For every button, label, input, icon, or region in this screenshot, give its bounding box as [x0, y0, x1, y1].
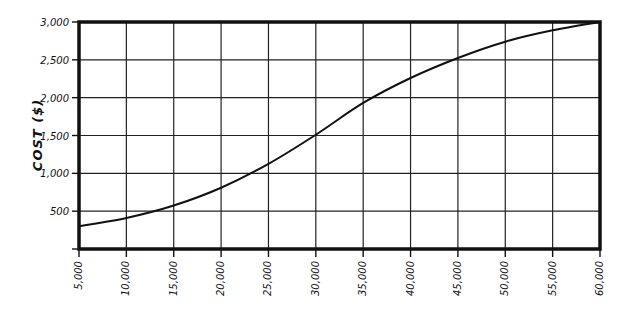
grid-lines	[79, 22, 600, 249]
cost-curve	[79, 22, 600, 226]
x-tick-label: 25,000	[262, 261, 273, 296]
x-tick-label: 30,000	[310, 261, 321, 296]
axis-ticks	[72, 22, 600, 257]
x-tick-label: 35,000	[357, 261, 368, 296]
x-tick-label: 50,000	[499, 261, 510, 296]
y-axis-title: COST ($)	[30, 99, 45, 171]
x-axis-tick-labels: 5,00010,00015,00020,00025,00030,00035,00…	[73, 261, 605, 296]
x-tick-label: 15,000	[168, 261, 179, 296]
y-tick-label: 2,500	[40, 55, 69, 66]
x-tick-label: 5,000	[73, 261, 84, 290]
x-tick-label: 60,000	[594, 261, 605, 296]
cost-line-chart: 5001,0001,5002,0002,5003,000 5,00010,000…	[0, 0, 617, 319]
x-tick-label: 10,000	[120, 261, 131, 296]
x-tick-label: 45,000	[452, 261, 463, 296]
x-tick-label: 55,000	[547, 261, 558, 296]
y-tick-label: 3,000	[40, 17, 69, 28]
x-tick-label: 40,000	[405, 261, 416, 296]
y-tick-label: 500	[50, 206, 69, 217]
x-tick-label: 20,000	[215, 261, 226, 296]
